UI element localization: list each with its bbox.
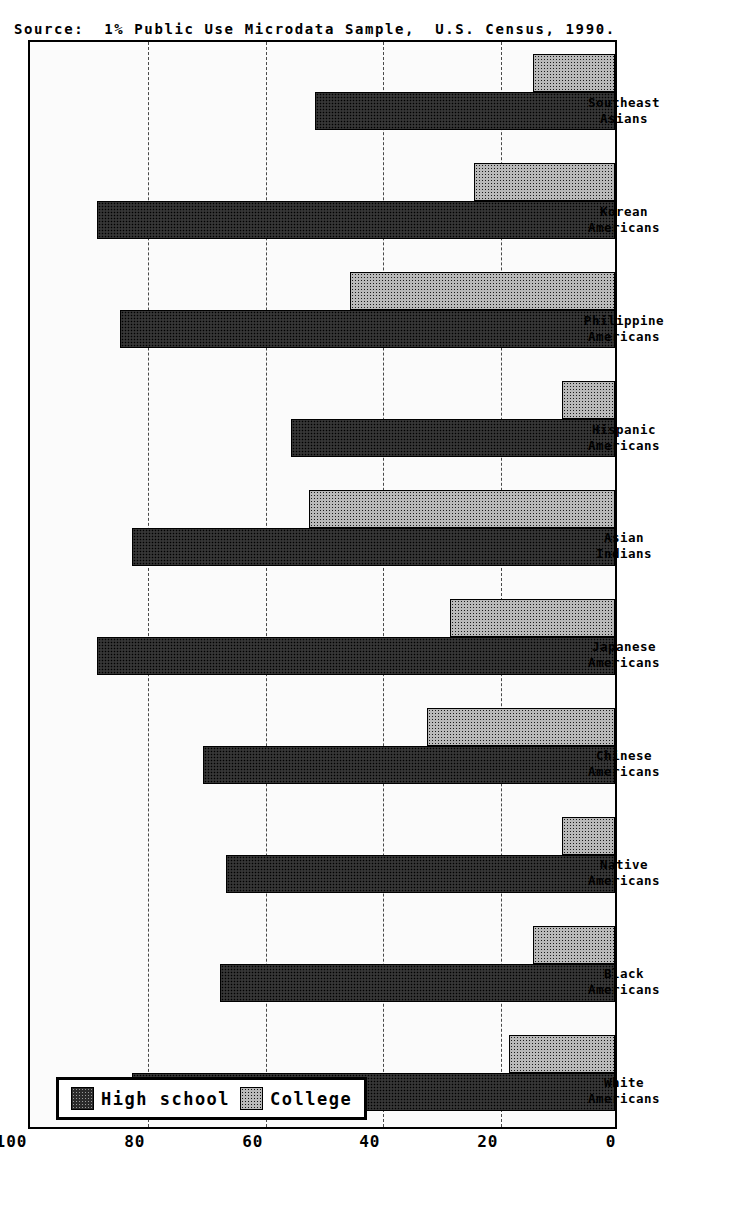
bar-group xyxy=(30,256,615,365)
bar-group xyxy=(30,40,615,147)
value-axis-tick-label: 80 xyxy=(85,1132,145,1151)
bar-high-school xyxy=(220,964,615,1002)
bar-high-school xyxy=(97,637,615,675)
bar-college xyxy=(562,817,615,855)
bar-group xyxy=(30,800,615,909)
bar-college xyxy=(533,926,615,964)
category-label: PhilippineAmericans xyxy=(570,312,679,343)
category-label-line: Americans xyxy=(570,763,679,779)
category-label-line: Americans xyxy=(570,981,679,997)
category-label: SoutheastAsians xyxy=(570,94,679,125)
category-label-line: Chinese xyxy=(570,748,679,764)
bar-high-school xyxy=(226,855,615,893)
value-axis-tick-label: 0 xyxy=(557,1132,617,1151)
category-label-line: Native xyxy=(570,857,679,873)
category-label: WhiteAmericans xyxy=(570,1075,679,1106)
bar-college xyxy=(533,54,615,92)
category-label-line: Americans xyxy=(570,872,679,888)
legend-entry-college: College xyxy=(240,1087,352,1110)
category-label: KoreanAmericans xyxy=(570,203,679,234)
category-label-line: Asians xyxy=(570,110,679,126)
category-label-line: Americans xyxy=(570,219,679,235)
bar-group xyxy=(30,365,615,474)
legend-entry-high-school: High school xyxy=(71,1087,230,1110)
value-axis-tick-label: 60 xyxy=(203,1132,263,1151)
bar-college xyxy=(562,381,615,419)
category-label-line: Philippine xyxy=(570,312,679,328)
category-label-line: Asian xyxy=(570,530,679,546)
category-label-line: Korean xyxy=(570,203,679,219)
bar-group xyxy=(30,147,615,256)
category-label-line: Indians xyxy=(570,546,679,562)
source-caption: Source: 1% Public Use Microdata Sample, … xyxy=(14,21,714,37)
value-axis-tick-label: 100 xyxy=(0,1132,28,1151)
chart-page: 100806040200 WhiteAmericansBlackAmerican… xyxy=(0,0,731,1217)
category-label: NativeAmericans xyxy=(570,857,679,888)
category-label: HispanicAmericans xyxy=(570,421,679,452)
legend-label-high-school: High school xyxy=(101,1089,230,1109)
bar-college xyxy=(309,490,615,528)
category-label-line: Hispanic xyxy=(570,421,679,437)
bar-group xyxy=(30,909,615,1018)
bar-high-school xyxy=(120,310,615,348)
category-label-line: Americans xyxy=(570,1090,679,1106)
category-label-line: Black xyxy=(570,966,679,982)
category-label-line: Americans xyxy=(570,437,679,453)
college-swatch-icon xyxy=(240,1087,263,1110)
category-label-line: Americans xyxy=(570,655,679,671)
bar-high-school xyxy=(97,201,615,239)
category-label-line: Japanese xyxy=(570,639,679,655)
chart-legend: High school College xyxy=(56,1077,367,1120)
value-axis-tick-label: 40 xyxy=(321,1132,381,1151)
bar-college xyxy=(350,272,615,310)
bar-college xyxy=(450,599,615,637)
category-label: BlackAmericans xyxy=(570,966,679,997)
bar-college xyxy=(427,708,615,746)
legend-label-college: College xyxy=(270,1089,352,1109)
plot-area xyxy=(28,40,617,1129)
bar-group xyxy=(30,691,615,800)
category-label: JapaneseAmericans xyxy=(570,639,679,670)
high-school-swatch-icon xyxy=(71,1087,94,1110)
category-label-line: White xyxy=(570,1075,679,1091)
value-axis-tick-label: 20 xyxy=(439,1132,499,1151)
bar-high-school xyxy=(132,528,615,566)
category-label: AsianIndians xyxy=(570,530,679,561)
bar-high-school xyxy=(203,746,615,784)
category-label-line: Americans xyxy=(570,328,679,344)
bar-high-school xyxy=(291,419,615,457)
bar-chart-figure: 100806040200 WhiteAmericansBlackAmerican… xyxy=(0,0,731,1217)
category-label-line: Southeast xyxy=(570,94,679,110)
bar-group xyxy=(30,583,615,692)
rotated-chart-stage: 100806040200 WhiteAmericansBlackAmerican… xyxy=(0,0,731,1217)
bar-college xyxy=(509,1035,615,1073)
bar-group xyxy=(30,474,615,583)
category-label: ChineseAmericans xyxy=(570,748,679,779)
bar-college xyxy=(474,163,615,201)
